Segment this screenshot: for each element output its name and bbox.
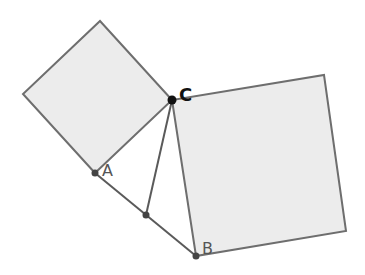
point-A [92, 170, 99, 177]
pythagoras-diagram: A B C [0, 0, 365, 275]
square-on-AC [23, 21, 172, 173]
point-C [168, 96, 177, 105]
point-H [143, 212, 150, 219]
label-C: C [179, 84, 192, 105]
square-on-CB [172, 75, 346, 256]
label-B: B [202, 239, 213, 258]
point-B [193, 253, 200, 260]
label-A: A [102, 161, 113, 180]
